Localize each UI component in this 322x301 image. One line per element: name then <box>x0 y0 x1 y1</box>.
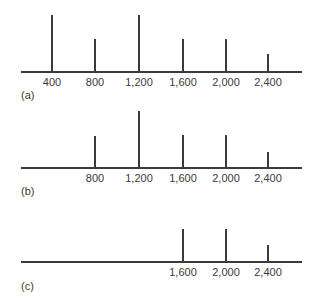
x-axis <box>21 261 302 263</box>
tick-label: 2,000 <box>206 172 246 184</box>
tick-label: 2,400 <box>248 266 288 278</box>
spectral-line <box>182 135 184 167</box>
tick-label: 2,400 <box>248 76 288 88</box>
tick-label: 1,200 <box>119 76 159 88</box>
spectral-line <box>51 15 53 71</box>
tick-label: 1,600 <box>163 266 203 278</box>
spectral-line <box>138 15 140 71</box>
tick-label: 800 <box>75 76 115 88</box>
x-axis <box>21 71 302 73</box>
spectral-line <box>267 245 269 261</box>
panel-label: (c) <box>21 280 34 292</box>
tick-label: 1,600 <box>163 172 203 184</box>
spectral-line <box>225 135 227 167</box>
panel-label: (a) <box>21 89 34 101</box>
tick-label: 1,200 <box>119 172 159 184</box>
spectral-line <box>182 229 184 261</box>
spectral-line <box>182 39 184 71</box>
tick-label: 400 <box>32 76 72 88</box>
x-axis <box>21 167 302 169</box>
tick-label: 2,000 <box>206 76 246 88</box>
spectral-line <box>225 229 227 261</box>
spectral-line <box>138 111 140 167</box>
tick-label: 1,600 <box>163 76 203 88</box>
spectral-line <box>94 136 96 167</box>
spectral-line <box>94 39 96 71</box>
spectral-line <box>267 54 269 71</box>
tick-label: 2,400 <box>248 172 288 184</box>
spectral-line <box>267 152 269 167</box>
tick-label: 800 <box>75 172 115 184</box>
tick-label: 2,000 <box>206 266 246 278</box>
spectral-line <box>225 39 227 71</box>
panel-label: (b) <box>21 185 34 197</box>
